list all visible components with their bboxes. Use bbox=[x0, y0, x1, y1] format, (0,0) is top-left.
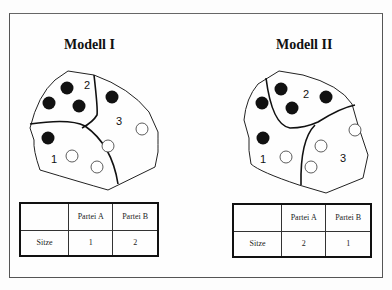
model-2-district-1-label: 1 bbox=[260, 153, 266, 165]
header-party-a: Partei A bbox=[282, 204, 326, 231]
row-label-seats: Sitze bbox=[233, 231, 282, 257]
model-2-map: 1 2 3 bbox=[244, 71, 368, 193]
seats-party-a: 1 bbox=[69, 230, 113, 256]
model-1-district-1-label: 1 bbox=[51, 153, 57, 165]
model-2-district-2-label: 2 bbox=[303, 88, 309, 100]
header-party-a: Partei A bbox=[69, 203, 113, 230]
model-2-seat-table: Partei A Partei B Sitze 2 1 bbox=[232, 203, 372, 258]
row-label-seats: Sitze bbox=[20, 230, 69, 256]
seats-party-a: 2 bbox=[282, 231, 326, 257]
header-party-b: Partei B bbox=[326, 204, 371, 231]
header-empty bbox=[20, 203, 69, 230]
seats-party-b: 1 bbox=[326, 231, 371, 257]
header-empty bbox=[233, 204, 282, 231]
model-1-district-3-label: 3 bbox=[116, 115, 122, 127]
model-2-district-3-label: 3 bbox=[340, 152, 346, 164]
seats-party-b: 2 bbox=[113, 230, 158, 256]
header-party-b: Partei B bbox=[113, 203, 158, 230]
model-1-seat-table: Partei A Partei B Sitze 1 2 bbox=[19, 202, 159, 257]
model-1-map: 1 2 3 bbox=[30, 71, 158, 190]
model-1-district-2-label: 2 bbox=[84, 79, 90, 91]
